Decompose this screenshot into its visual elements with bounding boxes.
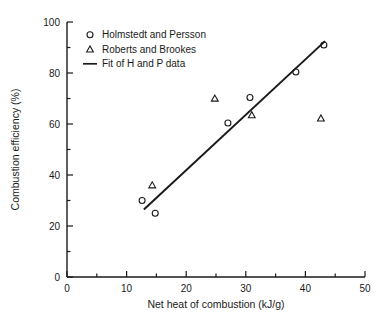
x-axis-title: Net heat of combustion (kJ/g) [147, 298, 284, 310]
x-tick-label: 30 [240, 283, 252, 294]
y-tick-label: 0 [54, 272, 60, 283]
x-tick-label: 20 [181, 283, 193, 294]
legend-label: Holmstedt and Persson [102, 29, 206, 40]
y-tick-label: 60 [49, 119, 61, 130]
scatter-plot: 01020304050Net heat of combustion (kJ/g)… [0, 0, 391, 335]
y-tick-label: 20 [49, 221, 61, 232]
data-point-triangle [317, 115, 324, 121]
data-point-triangle [149, 182, 156, 188]
figure-container: 01020304050Net heat of combustion (kJ/g)… [0, 0, 391, 335]
data-point-triangle [211, 95, 218, 101]
legend-label: Fit of H and P data [102, 58, 186, 69]
legend-marker-circle [87, 32, 93, 38]
data-point-circle [152, 210, 158, 216]
x-tick-label: 0 [64, 283, 70, 294]
x-tick-label: 50 [359, 283, 371, 294]
y-tick-label: 40 [49, 170, 61, 181]
x-tick-label: 40 [300, 283, 312, 294]
legend-label: Roberts and Brookes [102, 44, 196, 55]
y-axis-title: Combustion efficiency (%) [9, 89, 21, 211]
legend-marker-triangle [87, 46, 94, 52]
data-point-circle [139, 198, 145, 204]
y-tick-label: 80 [49, 68, 61, 79]
y-tick-label: 100 [43, 17, 60, 28]
data-point-circle [247, 94, 253, 100]
data-point-circle [225, 120, 231, 126]
x-tick-label: 10 [121, 283, 133, 294]
